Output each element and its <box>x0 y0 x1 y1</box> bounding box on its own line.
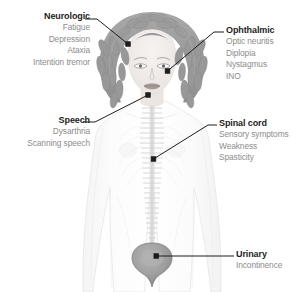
callout-title-ophthalmic: Ophthalmic <box>226 25 303 36</box>
callout-item-fatigue: Fatigue <box>6 22 90 33</box>
callout-item-spasticity: Spasticity <box>219 152 303 163</box>
ms-symptoms-diagram: Neurologic Fatigue Depression Ataxia Int… <box>0 0 303 292</box>
callout-speech: Speech Dysarthria Scanning speech <box>6 115 90 149</box>
callout-title-speech: Speech <box>6 115 90 126</box>
callout-item-scanning-speech: Scanning speech <box>6 138 90 149</box>
callout-item-ino: INO <box>226 71 303 82</box>
callout-item-weakness: Weakness <box>219 141 303 152</box>
callout-item-depression: Depression <box>6 34 90 45</box>
callout-spinal-cord: Spinal cord Sensory symptoms Weakness Sp… <box>219 118 303 164</box>
callout-item-ataxia: Ataxia <box>6 45 90 56</box>
head <box>125 28 179 106</box>
callout-title-neurologic: Neurologic <box>6 11 90 22</box>
callout-item-sensory-symptoms: Sensory symptoms <box>219 129 303 140</box>
callout-item-dysarthria: Dysarthria <box>6 126 90 137</box>
callout-ophthalmic: Ophthalmic Optic neuritis Diplopia Nysta… <box>226 25 303 82</box>
callout-neurologic: Neurologic Fatigue Depression Ataxia Int… <box>6 11 90 68</box>
callout-title-spinal-cord: Spinal cord <box>219 118 303 129</box>
callout-item-incontinence: Incontinence <box>236 260 302 271</box>
callout-item-intention-tremor: Intention tremor <box>6 57 90 68</box>
callout-title-urinary: Urinary <box>236 249 302 260</box>
callout-urinary: Urinary Incontinence <box>236 249 302 272</box>
callout-item-optic-neuritis: Optic neuritis <box>226 36 303 47</box>
callout-item-diplopia: Diplopia <box>226 48 303 59</box>
callout-item-nystagmus: Nystagmus <box>226 59 303 70</box>
